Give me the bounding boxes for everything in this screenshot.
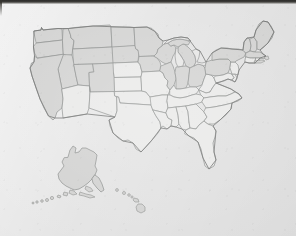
state-new-jersey [230,62,239,75]
state-florida [185,121,216,169]
state-kansas [114,77,142,92]
aleutian-island-8 [32,202,34,204]
state-montana [69,25,113,49]
kodiak-island [85,186,93,192]
aleutian-island-3 [57,195,61,198]
alaska-panhandle [92,175,104,192]
state-wyoming [73,47,113,65]
left-scan-edge-band [0,0,2,16]
aleutian-island-2 [63,192,68,196]
scanned-page [0,0,296,236]
aleutian-island-4 [50,196,53,199]
aleutian-island-9 [79,192,95,198]
top-scan-edge-band [0,0,296,4]
alaska-inset [32,146,104,204]
aleutian-island-5 [46,199,49,202]
state-south-dakota [112,46,139,64]
state-arizona [62,85,90,118]
aleutian-island-6 [41,200,44,203]
hawaii-island-oahu [123,192,126,195]
state-north-dakota [111,27,135,47]
state-alaska [58,146,97,190]
united-states-map-svg [0,0,296,236]
hawaii-island-lanai [131,196,133,198]
state-california [30,55,64,121]
aleutian-island-1 [69,190,77,195]
hawaii-island-kauai [116,189,119,192]
state-maine [254,21,274,50]
hawaii-island-molokai [128,194,131,197]
us-map-figure [0,0,296,236]
state-indiana [175,66,190,89]
aleutian-island-7 [36,201,38,203]
hawaii-island-maui [133,198,139,202]
hawaii-island-big-island [136,204,145,213]
hawaii-inset [116,189,145,213]
